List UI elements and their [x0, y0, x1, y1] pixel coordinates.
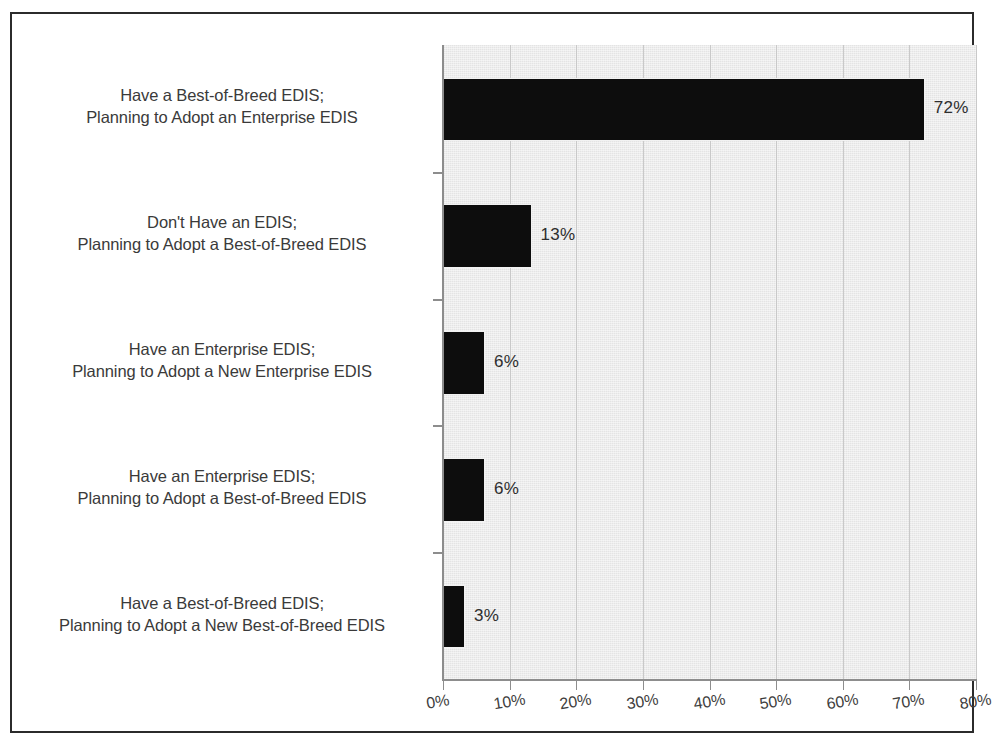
x-axis-tick — [909, 681, 910, 690]
x-axis-tick — [643, 681, 644, 690]
x-axis-tick — [976, 681, 977, 690]
x-axis-tick-label: 40% — [692, 690, 726, 713]
plot-area — [443, 45, 976, 679]
x-axis-tick — [843, 681, 844, 690]
y-axis-tick — [433, 425, 442, 427]
bar-value-label: 72% — [934, 98, 969, 118]
y-axis-tick — [433, 552, 442, 554]
category-label-line2: Planning to Adopt a Best-of-Breed EDIS — [12, 233, 432, 255]
category-label: Have an Enterprise EDIS;Planning to Adop… — [12, 338, 432, 382]
x-axis-tick — [576, 681, 577, 690]
x-axis-tick-label: 10% — [492, 690, 526, 713]
bar — [443, 458, 485, 521]
x-axis-tick-label: 20% — [558, 690, 592, 713]
bar — [443, 585, 465, 648]
bar-value-label: 6% — [494, 479, 519, 499]
category-label-line2: Planning to Adopt a New Enterprise EDIS — [12, 360, 432, 382]
bar-value-label: 3% — [474, 606, 499, 626]
x-axis-tick-label: 50% — [758, 690, 792, 713]
category-label-line1: Have an Enterprise EDIS; — [12, 338, 432, 360]
y-axis-spine — [442, 45, 444, 681]
x-axis-tick-label: 80% — [958, 690, 992, 713]
category-label: Have an Enterprise EDIS;Planning to Adop… — [12, 465, 432, 509]
category-label-line1: Have a Best-of-Breed EDIS; — [12, 84, 432, 106]
x-axis-tick-label: 0% — [425, 691, 451, 712]
category-label: Have a Best-of-Breed EDIS;Planning to Ad… — [12, 84, 432, 128]
x-axis-tick — [510, 681, 511, 690]
category-label-line1: Have an Enterprise EDIS; — [12, 465, 432, 487]
chart-frame: Have a Best-of-Breed EDIS;Planning to Ad… — [10, 12, 974, 733]
x-axis-tick — [443, 681, 444, 690]
x-axis-tick — [710, 681, 711, 690]
category-label-line2: Planning to Adopt an Enterprise EDIS — [12, 106, 432, 128]
x-axis-tick-label: 30% — [625, 690, 659, 713]
chart-figure: Have a Best-of-Breed EDIS;Planning to Ad… — [0, 0, 996, 748]
x-axis-tick — [776, 681, 777, 690]
gridline — [976, 45, 977, 679]
bar — [443, 78, 925, 141]
category-label-line1: Don't Have an EDIS; — [12, 211, 432, 233]
x-axis-tick-label: 70% — [892, 690, 926, 713]
y-axis-tick — [433, 299, 442, 301]
bar — [443, 204, 532, 267]
x-axis-tick-label: 60% — [825, 690, 859, 713]
y-axis-tick — [433, 172, 442, 174]
category-label-line2: Planning to Adopt a New Best-of-Breed ED… — [12, 614, 432, 636]
category-label-line1: Have a Best-of-Breed EDIS; — [12, 592, 432, 614]
bar-value-label: 6% — [494, 352, 519, 372]
bar-value-label: 13% — [541, 225, 576, 245]
bar — [443, 331, 485, 394]
category-label: Have a Best-of-Breed EDIS;Planning to Ad… — [12, 592, 432, 636]
category-label-line2: Planning to Adopt a Best-of-Breed EDIS — [12, 487, 432, 509]
category-label: Don't Have an EDIS;Planning to Adopt a B… — [12, 211, 432, 255]
